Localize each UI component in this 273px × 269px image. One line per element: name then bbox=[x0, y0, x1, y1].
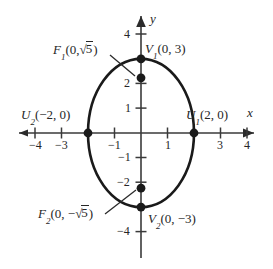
x-tick-label-4: 4 bbox=[244, 139, 250, 151]
label-f2-name: F bbox=[38, 206, 46, 221]
label-v1-subscript: 1 bbox=[153, 51, 158, 61]
label-f1-open: (0, bbox=[65, 42, 79, 57]
label-u2-subscript: 2 bbox=[30, 117, 35, 127]
y-tick-label-1: 1 bbox=[125, 102, 131, 114]
point-u1 bbox=[190, 129, 199, 138]
label-f2-open: (0, − bbox=[50, 206, 75, 221]
y-tick-label-neg2: −2 bbox=[117, 176, 130, 188]
label-f2-close: ) bbox=[89, 206, 93, 221]
label-v1-name: V bbox=[145, 41, 153, 56]
label-v1-coords: (0, 3) bbox=[157, 41, 185, 56]
label-v2-name: V bbox=[148, 211, 156, 226]
point-u2 bbox=[84, 129, 93, 138]
label-f1: F1(0,√5) bbox=[53, 42, 98, 60]
x-tick-label-neg4: −4 bbox=[29, 139, 42, 151]
y-axis-label: y bbox=[150, 12, 156, 25]
label-f1-close: ) bbox=[93, 42, 97, 57]
label-u1-coords: (2, 0) bbox=[200, 107, 228, 122]
point-f2 bbox=[137, 184, 146, 193]
x-tick-label-3: 3 bbox=[217, 139, 223, 151]
label-f2-subscript: 2 bbox=[46, 216, 51, 226]
y-tick-label-4: 4 bbox=[124, 28, 130, 40]
label-f2-radicand: 5 bbox=[81, 205, 89, 219]
label-u1: U1(2, 0) bbox=[186, 108, 228, 125]
label-f1-radical: √5 bbox=[80, 42, 94, 56]
label-u2-coords: (−2, 0) bbox=[35, 107, 71, 122]
label-v2: V2(0, −3) bbox=[148, 212, 196, 229]
point-v2 bbox=[137, 203, 146, 212]
ellipse-coordinate-figure bbox=[0, 0, 273, 269]
label-u1-subscript: 1 bbox=[195, 117, 200, 127]
label-f1-subscript: 1 bbox=[61, 52, 66, 62]
label-u1-name: U bbox=[186, 107, 195, 122]
y-tick-label-2: 2 bbox=[124, 77, 130, 89]
label-f1-name: F bbox=[53, 42, 61, 57]
label-v2-coords: (0, −3) bbox=[160, 211, 196, 226]
y-tick-label-neg1: −1 bbox=[118, 151, 131, 163]
x-axis-label: x bbox=[247, 106, 253, 119]
label-f1-radicand: 5 bbox=[86, 41, 94, 55]
label-u2: U2(−2, 0) bbox=[21, 108, 70, 125]
y-tick-label-neg4: −4 bbox=[117, 225, 130, 237]
x-tick-label-1: 1 bbox=[165, 139, 171, 151]
label-f2-radical: √5 bbox=[75, 206, 89, 220]
x-tick-label-neg3: −3 bbox=[55, 139, 68, 151]
point-f1 bbox=[137, 73, 146, 82]
figure-background bbox=[0, 0, 273, 269]
label-v2-subscript: 2 bbox=[156, 221, 161, 231]
label-u2-name: U bbox=[21, 107, 30, 122]
label-v1: V1(0, 3) bbox=[145, 42, 186, 59]
label-f2: F2(0, −√5) bbox=[38, 206, 93, 224]
